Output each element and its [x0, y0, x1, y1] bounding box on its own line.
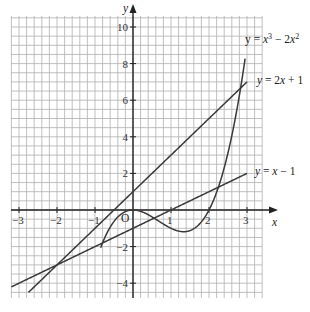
line-x-minus-1-label: y = x − 1 — [254, 165, 296, 178]
grid — [11, 16, 262, 298]
x-tick-label: 3 — [243, 214, 249, 226]
x-tick-label: 1 — [167, 214, 173, 226]
axes: xyO−3−2−1123108642−2−4 — [11, 2, 278, 298]
x-tick-label: −1 — [88, 214, 100, 226]
x-axis-label: x — [271, 216, 278, 228]
x-tick-label: −3 — [12, 214, 24, 226]
y-tick-label: −2 — [116, 241, 128, 253]
line-2x-plus-1-label: y = 2x + 1 — [256, 74, 303, 87]
x-axis-arrow-icon — [269, 207, 278, 214]
x-tick-label: −2 — [50, 214, 62, 226]
legend-labels: y = x3 − 2x2y = 2x + 1y = x − 1 — [245, 32, 303, 179]
series-3-line — [11, 173, 247, 286]
y-tick-label: 10 — [117, 21, 129, 33]
y-tick-label: 8 — [123, 58, 129, 70]
y-tick-label: 4 — [123, 131, 129, 143]
y-tick-label: −4 — [116, 277, 128, 289]
graph: xyO−3−2−1123108642−2−4y = x3 − 2x2y = 2x… — [0, 0, 310, 312]
cubic-label: y = x3 − 2x2 — [245, 32, 299, 47]
y-axis-label: y — [122, 2, 129, 15]
y-axis-arrow-icon — [130, 4, 137, 13]
y-tick-label: 2 — [123, 167, 129, 179]
curves — [11, 59, 247, 293]
series-2-line — [29, 82, 248, 292]
y-tick-label: 6 — [123, 94, 129, 106]
